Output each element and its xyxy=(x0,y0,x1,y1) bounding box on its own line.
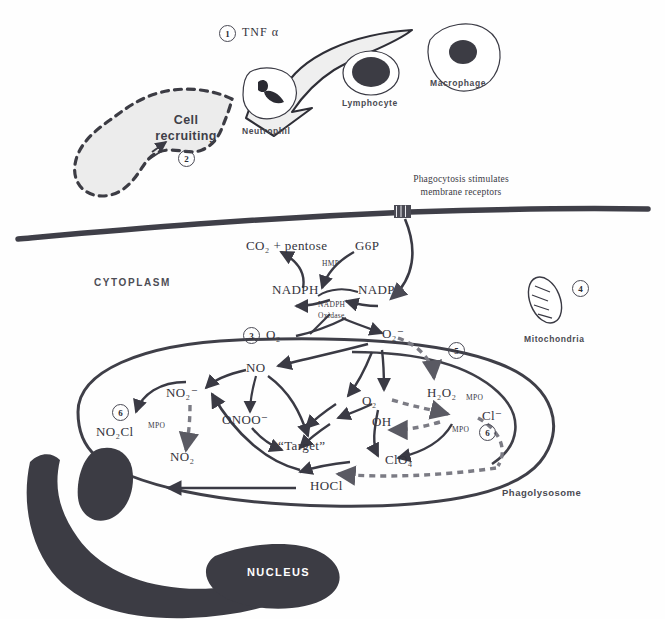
g6p-label: G6P xyxy=(355,238,379,254)
superoxide-label: O₂⁻ xyxy=(382,326,404,342)
dioxygen-label: O₂ xyxy=(362,393,377,409)
lymphocyte-label: Lymphocyte xyxy=(342,98,398,108)
mpo-upper-right-label: MPO xyxy=(466,393,483,402)
receptor-caption-line2: membrane receptors xyxy=(386,186,536,199)
marker-3: 3 xyxy=(243,327,260,344)
mpo-lower-right-label: MPO xyxy=(452,425,469,434)
nucleus-label: NUCLEUS xyxy=(247,566,310,578)
peroxynitrite-label: ONOO⁻ xyxy=(222,412,269,428)
nitrogen-dioxide-label: NO₂ xyxy=(170,449,195,465)
diagram-vector-layer xyxy=(0,0,665,619)
hmp-enzyme-label: HMP xyxy=(322,259,339,268)
nitryl-chloride-label: NO₂Cl xyxy=(96,424,134,440)
marker-4: 4 xyxy=(572,280,589,297)
nadph-oxidase-line2: Oxidase xyxy=(318,311,345,320)
marker-5: 5 xyxy=(448,342,465,359)
marker-1: 1 xyxy=(219,25,236,42)
phagolysosome-label: Phagolysosome xyxy=(502,487,581,498)
target-label: “Target” xyxy=(278,438,326,454)
neutrophil-cell-shape xyxy=(243,68,296,119)
macrophage-label: Macrophage xyxy=(430,78,486,88)
oxygen-input-label: O₂ xyxy=(266,327,281,343)
marker-6-right: 6 xyxy=(479,424,496,441)
tnf-alpha-label: TNF α xyxy=(242,25,279,40)
hydroxyl-radical-label: OH xyxy=(372,414,392,430)
co2-pentose-label: CO₂ + pentose xyxy=(246,238,327,254)
perchlorate-label: ClO₄ xyxy=(385,452,413,468)
nitric-oxide-label: NO xyxy=(246,360,266,376)
nadph-oxidase-line1: NADPH xyxy=(318,300,345,309)
figure-canvas: 1 TNF α Neutrophil Lymphocyte Macrophage… xyxy=(0,0,665,619)
neutrophil-label: Neutrophil xyxy=(242,126,291,136)
chloride-label: Cl⁻ xyxy=(482,408,502,424)
nitrite-label: NO₂⁻ xyxy=(166,385,198,401)
hydrogen-peroxide-label: H₂O₂ xyxy=(427,385,456,401)
mpo-left-label: MPO xyxy=(148,421,165,430)
nadph-label: NADPH xyxy=(272,282,319,298)
cytoplasm-label: CYTOPLASM xyxy=(94,277,171,288)
hypochlorous-acid-label: HOCl xyxy=(310,478,343,494)
nadp-label: NADP xyxy=(358,282,395,298)
lymphocyte-cell-shape xyxy=(343,51,399,95)
mitochondrion-shape xyxy=(522,272,568,328)
marker-2: 2 xyxy=(178,150,195,167)
receptor-caption-line1: Phagocytosis stimulates xyxy=(386,173,536,186)
mitochondria-label: Mitochondria xyxy=(524,334,585,344)
nucleus-shape xyxy=(27,448,340,618)
marker-6-left: 6 xyxy=(112,404,129,421)
cell-recruiting-line1: Cell xyxy=(146,113,226,129)
cell-recruiting-line2: recruiting xyxy=(136,129,236,145)
plasma-membrane xyxy=(18,205,648,239)
receptor-signal-arrow xyxy=(392,219,412,298)
